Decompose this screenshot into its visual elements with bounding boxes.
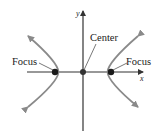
- center-point: [80, 69, 86, 75]
- center-label: Center: [90, 32, 118, 43]
- x-axis-label: x: [139, 74, 144, 83]
- hyperbola-diagram: Focus Center Focus y x: [0, 0, 163, 139]
- left-focus-leader: [39, 63, 53, 70]
- y-axis-label: y: [75, 9, 80, 18]
- center-leader: [84, 44, 96, 70]
- right-focus-label: Focus: [126, 56, 151, 67]
- left-focus-label: Focus: [12, 56, 37, 67]
- right-focus-leader: [113, 63, 127, 70]
